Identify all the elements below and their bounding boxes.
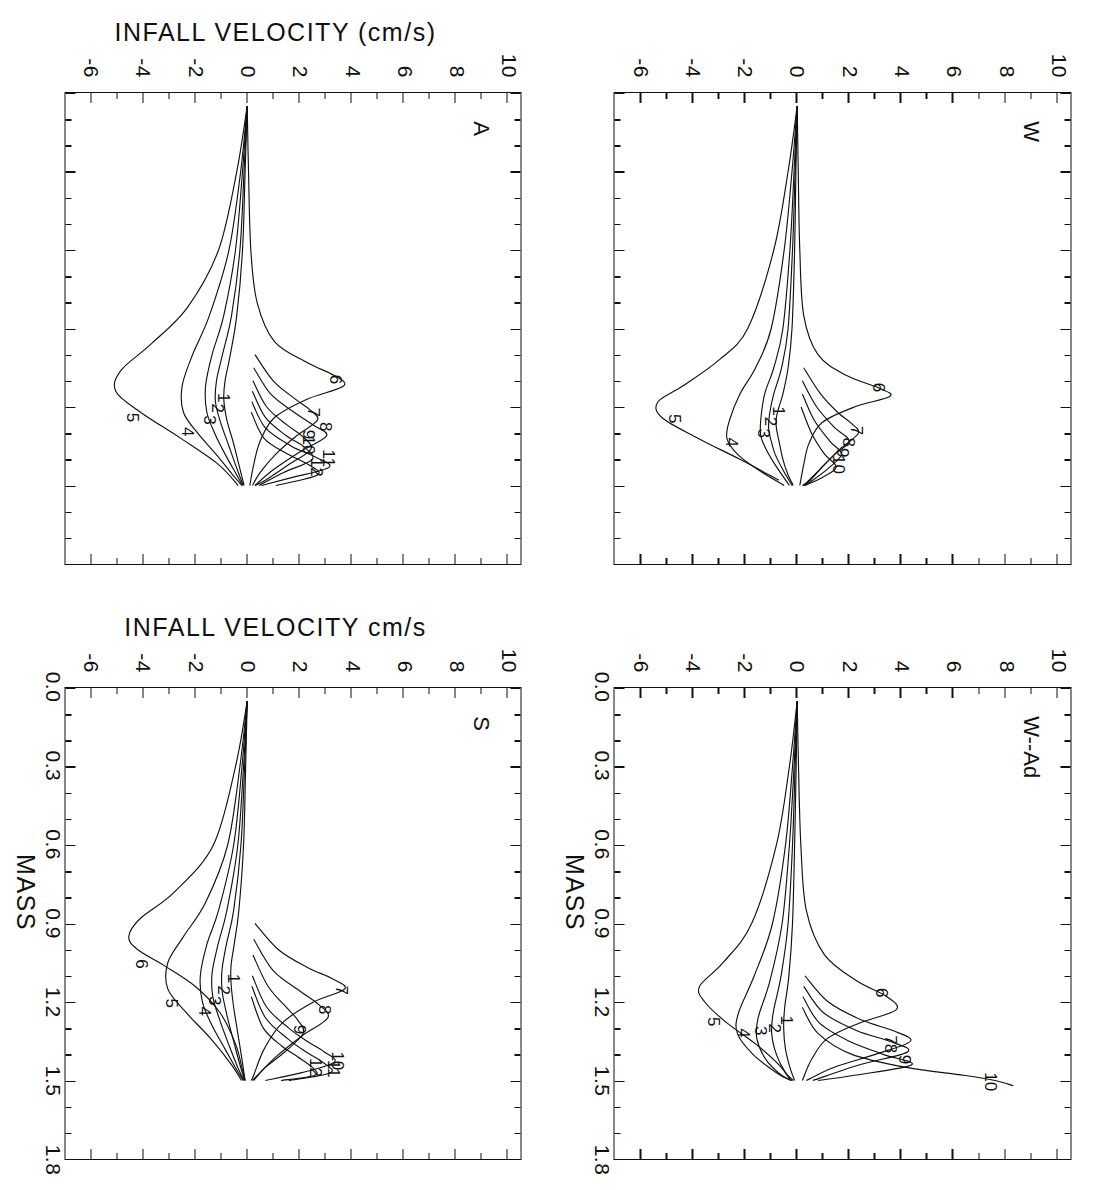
y-tick-label: -6	[628, 653, 652, 673]
x-tick-label: 0.9	[590, 908, 614, 939]
x-tick-minor	[615, 538, 621, 539]
x-tick-minor	[65, 512, 71, 513]
x-tick-minor	[1064, 950, 1070, 951]
x-tick-minor	[65, 714, 71, 715]
curve-label-6: 6	[870, 988, 890, 997]
x-tick-major	[65, 1159, 75, 1160]
y-tick-major	[743, 93, 744, 103]
y-tick-minor	[272, 558, 273, 564]
y-tick-major	[639, 1149, 640, 1159]
x-tick-major	[511, 766, 521, 767]
x-tick-minor	[1064, 302, 1070, 303]
x-tick-label: 1.2	[40, 987, 64, 1018]
y-tick-major	[194, 1149, 195, 1159]
y-tick-minor	[665, 688, 666, 694]
y-tick-major	[402, 554, 403, 564]
y-tick-major	[795, 1149, 796, 1159]
y-tick-label: 10	[496, 649, 520, 673]
curve-label-10: 10	[827, 455, 847, 474]
x-tick-minor	[515, 355, 521, 356]
y-tick-major	[298, 688, 299, 698]
x-tick-minor	[1064, 714, 1070, 715]
y-tick-label: 6	[392, 66, 416, 78]
x-tick-minor	[615, 1107, 621, 1108]
y-tick-major	[899, 1149, 900, 1159]
x-tick-major	[615, 564, 625, 565]
panel-w: 12345678910W1086420-2-4-6	[550, 0, 1099, 595]
panel-tag: S	[467, 716, 493, 731]
y-tick-major	[506, 93, 507, 103]
y-tick-label: -2	[183, 653, 207, 673]
x-tick-minor	[65, 145, 71, 146]
x-tick-minor	[515, 119, 521, 120]
y-tick-label: 6	[941, 66, 965, 78]
y-tick-label: 6	[941, 661, 965, 673]
x-tick-label: 0.0	[40, 672, 64, 703]
x-tick-major	[615, 1002, 625, 1003]
y-tick-major	[1004, 1149, 1005, 1159]
x-tick-minor	[615, 433, 621, 434]
axes-frame: 12345678910W	[614, 92, 1072, 565]
x-tick-minor	[1064, 871, 1070, 872]
y-tick-major	[246, 688, 247, 698]
x-tick-minor	[1064, 1054, 1070, 1055]
y-tick-minor	[116, 1153, 117, 1159]
y-tick-minor	[480, 688, 481, 694]
y-tick-major	[899, 93, 900, 103]
x-tick-label: 0.3	[40, 750, 64, 781]
y-tick-label: 0	[785, 66, 809, 78]
x-tick-label: 1.8	[590, 1145, 614, 1176]
y-tick-minor	[665, 1153, 666, 1159]
x-tick-minor	[65, 459, 71, 460]
y-tick-major	[899, 688, 900, 698]
y-tick-major	[743, 554, 744, 564]
x-tick-major	[615, 329, 625, 330]
y-tick-minor	[873, 558, 874, 564]
curve-label-8: 8	[837, 438, 857, 447]
y-tick-minor	[428, 1153, 429, 1159]
y-tick-major	[350, 554, 351, 564]
y-tick-major	[350, 688, 351, 698]
curve-9	[253, 955, 304, 1081]
y-tick-major	[1004, 93, 1005, 103]
plot-area	[615, 688, 1071, 1159]
x-tick-minor	[1064, 433, 1070, 434]
y-tick-major	[1056, 93, 1057, 103]
x-tick-label: 0.9	[40, 908, 64, 939]
y-tick-minor	[978, 1153, 979, 1159]
x-tick-minor	[515, 897, 521, 898]
x-tick-minor	[615, 198, 621, 199]
y-tick-major	[951, 1149, 952, 1159]
x-tick-major	[1060, 564, 1070, 565]
curve-label-7: 7	[330, 985, 350, 994]
x-tick-minor	[615, 819, 621, 820]
x-tick-minor	[515, 950, 521, 951]
y-tick-major	[743, 688, 744, 698]
x-tick-minor	[515, 871, 521, 872]
y-tick-label: 8	[994, 66, 1018, 78]
y-tick-major	[298, 93, 299, 103]
y-tick-minor	[717, 1153, 718, 1159]
y-tick-major	[847, 1149, 848, 1159]
y-tick-minor	[168, 558, 169, 564]
x-tick-minor	[515, 512, 521, 513]
y-tick-label: 2	[287, 661, 311, 673]
x-tick-minor	[65, 819, 71, 820]
x-tick-label: 0.6	[590, 829, 614, 860]
x-tick-major	[511, 1081, 521, 1082]
x-tick-minor	[1064, 224, 1070, 225]
x-tick-major	[1060, 1159, 1070, 1160]
y-tick-minor	[480, 93, 481, 99]
x-tick-major	[615, 93, 625, 94]
x-tick-minor	[65, 276, 71, 277]
curve-label-8: 8	[313, 1005, 333, 1014]
x-tick-major	[65, 93, 75, 94]
x-tick-minor	[515, 1054, 521, 1055]
y-tick-minor	[324, 93, 325, 99]
x-tick-major	[511, 93, 521, 94]
y-tick-major	[454, 1149, 455, 1159]
x-tick-major	[1060, 171, 1070, 172]
x-tick-minor	[1064, 512, 1070, 513]
y-tick-minor	[220, 93, 221, 99]
y-tick-minor	[272, 688, 273, 694]
